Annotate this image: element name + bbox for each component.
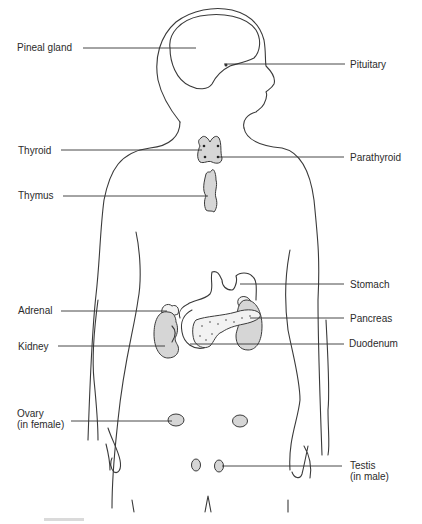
label-pineal-gland: Pineal gland [17, 42, 72, 53]
torso-right-outline [244, 128, 322, 455]
label-pancreas: Pancreas [350, 313, 392, 324]
parathyroid-gland [217, 145, 220, 148]
cropped-caption [44, 518, 84, 521]
torso-left-outline [88, 122, 180, 440]
label-pituitary: Pituitary [350, 59, 386, 70]
label-ovary: Ovary (in female) [17, 408, 64, 430]
ovary-left [168, 414, 184, 426]
ovary-right [233, 415, 248, 427]
thymus-gland [204, 170, 217, 212]
label-thyroid: Thyroid [18, 145, 51, 156]
left-arm-inner [112, 232, 140, 508]
label-duodenum: Duodenum [349, 338, 398, 349]
label-parathyroid: Parathyroid [350, 152, 401, 163]
testis-left [192, 459, 201, 471]
right-arm-outer [326, 320, 329, 455]
parathyroid-gland [203, 145, 206, 148]
label-testis: Testis (in male) [350, 460, 389, 482]
right-hand [292, 446, 311, 478]
label-adrenal: Adrenal [18, 305, 52, 316]
label-stomach: Stomach [350, 279, 389, 290]
brain-outline [170, 15, 260, 89]
body-illustration [0, 0, 422, 524]
parathyroid-gland [204, 156, 207, 159]
leg-left [132, 500, 134, 512]
label-thymus: Thymus [18, 190, 54, 201]
endocrine-diagram: Pineal gland Pituitary Thyroid Parathyro… [0, 0, 422, 524]
label-kidney: Kidney [18, 341, 49, 352]
right-arm-inner [286, 250, 300, 470]
crotch [205, 496, 211, 512]
